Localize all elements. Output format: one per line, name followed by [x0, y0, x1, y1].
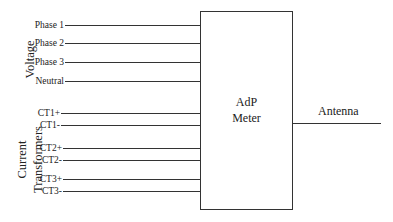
- wire: [63, 191, 200, 192]
- wire: [65, 43, 200, 44]
- input-label: Neutral: [4, 76, 64, 86]
- wire: [65, 81, 200, 82]
- meter-label-line2: Meter: [200, 110, 293, 126]
- wire: [65, 25, 200, 26]
- adp-meter-label: AdP Meter: [200, 94, 293, 126]
- input-label: Phase 2: [4, 38, 64, 48]
- input-label: CT1-: [0, 120, 60, 130]
- wire: [63, 160, 200, 161]
- input-label: CT1+: [0, 108, 60, 118]
- antenna-wire: [293, 123, 381, 124]
- antenna-label: Antenna: [318, 104, 359, 118]
- input-label: CT2+: [2, 143, 62, 153]
- input-label: Phase 1: [4, 20, 64, 30]
- wire: [63, 179, 200, 180]
- wire: [61, 113, 200, 114]
- input-label: Phase 3: [4, 57, 64, 67]
- wire: [61, 125, 200, 126]
- input-label: CT3-: [2, 186, 62, 196]
- input-label: CT3+: [2, 174, 62, 184]
- wire: [65, 62, 200, 63]
- wire: [63, 148, 200, 149]
- input-label: CT2-: [2, 155, 62, 165]
- meter-label-line1: AdP: [200, 94, 293, 110]
